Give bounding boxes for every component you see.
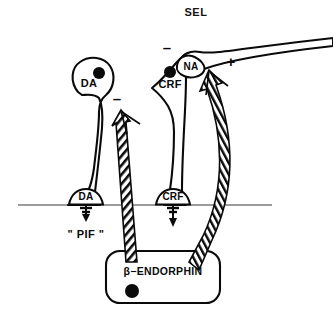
da-terminal-label: DA	[79, 191, 94, 202]
da-minus-sign: –	[113, 90, 121, 107]
page-title: SEL	[184, 6, 207, 18]
na-terminal-label: NA	[184, 61, 199, 72]
beta-endorphin-nucleus-dot	[125, 284, 139, 298]
crf-nucleus-dot	[164, 66, 176, 78]
pif-label: " PIF "	[67, 228, 104, 240]
crf-minus-sign: –	[163, 39, 171, 56]
na-plus-sign: +	[227, 53, 236, 70]
neuroendocrine-circuit-diagram: SEL DA DA " PIF "	[0, 0, 333, 313]
crf-terminal-label: CRF	[162, 191, 183, 202]
beta-endorphin-label: β−ENDORPHIN	[124, 265, 203, 277]
da-soma-label: DA	[81, 77, 97, 89]
figure-canvas: SEL DA DA " PIF "	[0, 0, 333, 313]
crf-soma-label: CRF	[158, 78, 181, 90]
